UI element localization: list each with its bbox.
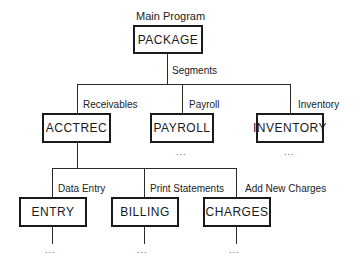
payroll-box: PAYROLL bbox=[150, 113, 214, 143]
inventory-label: Inventory bbox=[298, 99, 339, 110]
payroll-connector bbox=[182, 84, 183, 113]
billing-connector bbox=[144, 168, 145, 197]
billing-continuation: ... bbox=[137, 245, 148, 255]
charges-continuation: ... bbox=[229, 245, 240, 255]
entry-box: ENTRY bbox=[19, 197, 87, 227]
entry-continuation: ... bbox=[45, 245, 56, 255]
acctrec-stem-line bbox=[77, 143, 78, 168]
package-box: PACKAGE bbox=[133, 25, 203, 54]
root-caption: Main Program bbox=[136, 10, 205, 22]
level1-bus-line bbox=[77, 84, 291, 85]
data-entry-label: Data Entry bbox=[58, 183, 105, 194]
receivables-label: Receivables bbox=[83, 99, 137, 110]
print-statements-label: Print Statements bbox=[150, 183, 224, 194]
inventory-continuation: ... bbox=[284, 147, 295, 157]
entry-stem-line bbox=[52, 227, 53, 244]
acctrec-box: ACCTREC bbox=[42, 113, 111, 143]
billing-box: BILLING bbox=[111, 197, 179, 227]
billing-stem-line bbox=[144, 227, 145, 244]
entry-connector bbox=[52, 168, 53, 197]
segments-label: Segments bbox=[172, 65, 217, 76]
charges-box: CHARGES bbox=[203, 197, 271, 227]
charges-connector bbox=[236, 168, 237, 197]
payroll-continuation: ... bbox=[176, 147, 187, 157]
root-stem-line bbox=[167, 54, 168, 84]
add-new-charges-label: Add New Charges bbox=[245, 183, 326, 194]
inventory-connector bbox=[290, 84, 291, 113]
inventory-box: INVENTORY bbox=[256, 113, 324, 143]
acctrec-connector bbox=[77, 84, 78, 113]
payroll-label: Payroll bbox=[189, 99, 220, 110]
charges-stem-line bbox=[236, 227, 237, 244]
